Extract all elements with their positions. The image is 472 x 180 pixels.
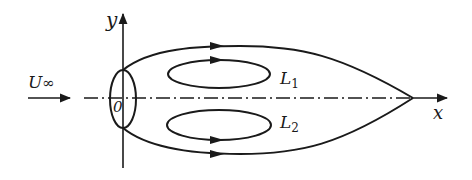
streamline-arrow-icon <box>210 42 224 50</box>
loop-l1-arrow-icon <box>210 56 224 64</box>
origin-label: 0 <box>113 100 123 115</box>
separation-streamline-upper <box>123 46 413 98</box>
recirculation-loop-l1 <box>168 60 270 88</box>
loop-l2-symbol: L <box>280 112 291 132</box>
loop-l1-symbol: L <box>280 68 291 88</box>
loop-l1-label: L1 <box>280 70 299 90</box>
free-stream-label: U∞ <box>28 74 55 91</box>
x-axis-label: x <box>433 104 443 122</box>
loop-l2-index: 2 <box>291 121 299 135</box>
flow-diagram <box>0 0 472 180</box>
loop-l2-label: L2 <box>280 114 299 134</box>
y-axis-label: y <box>106 10 117 30</box>
loop-l1-index: 1 <box>291 77 299 91</box>
recirculation-loop-l2 <box>167 110 271 140</box>
free-stream-subscript: ∞ <box>42 74 55 92</box>
free-stream-symbol: U <box>28 72 42 92</box>
loop-l2-arrow-icon <box>210 136 224 144</box>
streamline-arrow-icon <box>210 150 224 158</box>
